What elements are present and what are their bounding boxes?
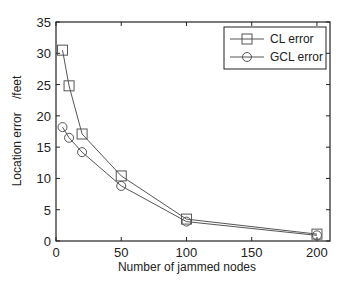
line-chart: 05010015020005101520253035 Number of jam… (0, 0, 348, 285)
y-tick-label: 35 (37, 15, 51, 30)
circle-marker (58, 123, 67, 132)
x-axis-label: Number of jammed nodes (118, 260, 256, 274)
y-tick-label: 0 (44, 234, 51, 249)
x-tick-label: 100 (176, 245, 198, 260)
y-tick-label: 10 (37, 171, 51, 186)
series-gcl-error (58, 123, 321, 240)
x-tick-label: 0 (52, 245, 59, 260)
y-tick-label: 20 (37, 109, 51, 124)
legend: CL errorGCL error (224, 27, 326, 69)
legend-item: CL error (230, 32, 314, 46)
y-tick-label: 30 (37, 46, 51, 61)
y-tick-label: 5 (44, 203, 51, 218)
x-tick-label: 150 (241, 245, 263, 260)
x-tick-label: 200 (306, 245, 328, 260)
x-tick-label: 50 (114, 245, 128, 260)
y-axis-label: Location error /feet (10, 75, 24, 186)
data-series (58, 45, 322, 240)
series-cl-error (58, 45, 322, 239)
legend-label: CL error (270, 32, 314, 46)
y-tick-label: 15 (37, 140, 51, 155)
series-line (63, 50, 317, 234)
y-tick-label: 25 (37, 78, 51, 93)
legend-label: GCL error (270, 50, 323, 64)
